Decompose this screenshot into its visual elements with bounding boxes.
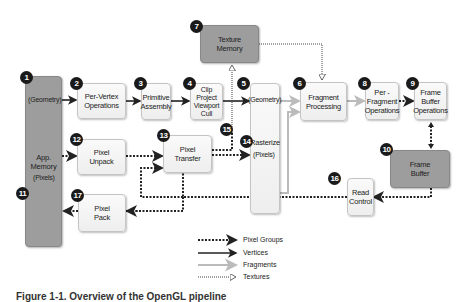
badge-8: 8 xyxy=(358,77,371,90)
pixel-transfer-box: Pixel Transfer xyxy=(163,135,212,173)
badge-4: 4 xyxy=(183,77,196,90)
raster-pixels-label: (Pixels) xyxy=(253,151,275,158)
badge-6: 6 xyxy=(293,77,306,90)
fragment-processing-label: Fragment Processing xyxy=(306,93,341,111)
rasterize-label: Rasterize xyxy=(250,138,280,147)
app-geometry-label: (Geometry) xyxy=(28,96,61,103)
badge-13: 13 xyxy=(157,129,170,142)
badge-10: 10 xyxy=(380,143,393,156)
fragment-processing-box: Fragment Processing xyxy=(300,82,347,121)
pixel-unpack-label: Pixel Unpack xyxy=(89,148,113,166)
frame-buffer-label: Frame Buffer xyxy=(410,160,431,178)
app-memory-label: App. Memory xyxy=(31,153,57,171)
pixel-pack-label: Pixel Pack xyxy=(94,204,110,222)
legend-pixel-groups: Pixel Groups xyxy=(243,236,283,243)
badge-5: 5 xyxy=(237,77,250,90)
badge-2: 2 xyxy=(70,77,83,90)
read-control-label: Read Control xyxy=(349,188,372,206)
per-vertex-label: Per-Vertex Operations xyxy=(84,92,119,110)
frame-buffer-box: Frame Buffer xyxy=(390,150,450,188)
clip-project-label: Clip Project Viewport Cull xyxy=(194,86,220,118)
raster-geometry-label: (Geometry) xyxy=(248,96,281,103)
badge-14: 14 xyxy=(240,135,253,148)
app-pixels-label: (Pixels) xyxy=(33,174,55,181)
per-fragment-label: Per - Fragment Operations xyxy=(365,88,400,115)
badge-16: 16 xyxy=(328,172,341,185)
primitive-assembly-label: Primitive Assembly xyxy=(141,93,172,111)
pixel-pack-box: Pixel Pack xyxy=(78,194,126,232)
badge-1: 1 xyxy=(20,71,33,84)
badge-12: 12 xyxy=(70,133,83,146)
clip-project-box: Clip Project Viewport Cull xyxy=(190,83,223,120)
legend-textures: Textures xyxy=(243,273,269,280)
pixel-unpack-box: Pixel Unpack xyxy=(77,139,126,175)
per-vertex-operations-box: Per-Vertex Operations xyxy=(77,83,126,119)
legend-fragments: Fragments xyxy=(243,261,276,268)
badge-15: 15 xyxy=(220,123,233,136)
figure-caption: Figure 1-1. Overview of the OpenGL pipel… xyxy=(16,291,226,302)
primitive-assembly-box: Primitive Assembly xyxy=(141,83,171,120)
read-control-box: Read Control xyxy=(347,178,374,216)
badge-11: 11 xyxy=(16,187,29,200)
frame-buffer-ops-label: Frame Buffer Operations xyxy=(413,88,448,115)
badge-9: 9 xyxy=(406,77,419,90)
frame-buffer-operations-box: Frame Buffer Operations xyxy=(414,82,447,120)
badge-3: 3 xyxy=(134,77,147,90)
texture-memory-box: Texture Memory xyxy=(200,25,259,63)
badge-7: 7 xyxy=(190,20,203,33)
badge-17: 17 xyxy=(71,189,84,202)
per-fragment-operations-box: Per - Fragment Operations xyxy=(365,82,399,120)
pixel-transfer-label: Pixel Transfer xyxy=(174,145,200,163)
legend-vertices: Vertices xyxy=(243,249,268,256)
texture-memory-label: Texture Memory xyxy=(217,35,243,53)
